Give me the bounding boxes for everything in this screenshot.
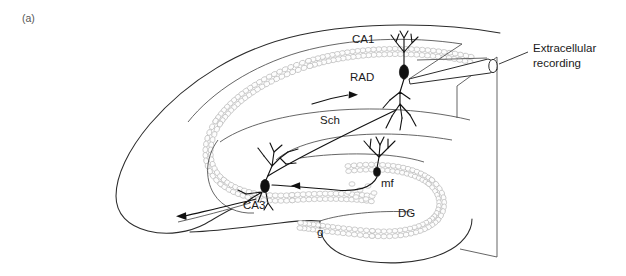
label-extracellular-recording-line2: recording <box>533 57 581 69</box>
label-rad: RAD <box>350 71 374 83</box>
label-mf: mf <box>381 177 395 189</box>
label-ca3: CA3 <box>243 199 265 211</box>
mossy-fiber-pathway <box>272 177 377 190</box>
slice-cut-edge <box>457 57 497 257</box>
hippocampal-slice-diagram: (a) CA1 RAD Sch CA3 mf DG g Extracellula… <box>0 0 626 276</box>
label-ca1: CA1 <box>352 33 374 45</box>
label-extracellular-recording-line1: Extracellular <box>533 42 596 54</box>
label-sch: Sch <box>320 114 340 126</box>
electrode-leader-line <box>499 52 528 64</box>
label-dg: DG <box>398 207 415 219</box>
label-g: g <box>317 226 323 238</box>
figure-canvas: (a) CA1 RAD Sch CA3 mf DG g Extracellula… <box>0 0 626 276</box>
panel-label: (a) <box>22 12 35 24</box>
